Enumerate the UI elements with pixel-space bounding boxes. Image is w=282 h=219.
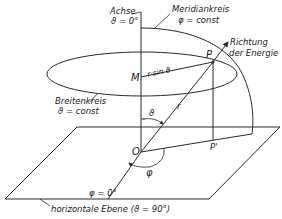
origin-label: O [132, 146, 140, 157]
latitude-value-label: ϑ = const [58, 106, 99, 116]
r-sin-theta-label: r·sin ϑ [147, 65, 172, 79]
meridian-base [233, 134, 252, 137]
theta-angle-arc [143, 119, 163, 124]
direction-label-line2: der Energie [229, 48, 278, 58]
axis-title-label: Achse [109, 6, 136, 16]
direction-label-line1: Richtung [230, 37, 268, 47]
point-m-label: M [131, 72, 140, 83]
theta-label: ϑ [149, 108, 155, 118]
meridian-value-label: φ = const [178, 15, 220, 25]
line-o-to-p-prime [141, 137, 233, 152]
phi-label: φ [146, 167, 153, 178]
latitude-title-label: Breitenkreis [55, 96, 107, 106]
meridian-leader [155, 14, 170, 28]
point-p-label: P [206, 49, 213, 60]
radius-label: r [177, 101, 181, 111]
phi-zero-label: φ = 0° [89, 188, 117, 198]
spherical-coordinates-diagram: Achse ϑ = 0° Meridiankreis φ = const Ric… [0, 0, 282, 219]
horizontal-plane [5, 127, 280, 199]
point-p-prime-label: P' [210, 142, 217, 152]
plane-label: horizontale Ebene (ϑ = 90°) [51, 204, 170, 214]
meridian-title-label: Meridiankreis [172, 4, 230, 14]
point-p-dot [212, 61, 215, 64]
plane-leader [40, 199, 50, 206]
axis-value-label: ϑ = 0° [111, 16, 138, 26]
